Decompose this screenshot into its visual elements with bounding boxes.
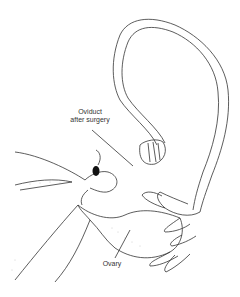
ovary-body xyxy=(78,205,182,258)
oviduct-label-line1: Oviduct xyxy=(60,108,120,116)
ovary-label: Ovary xyxy=(92,260,132,268)
oviduct-tube-outer xyxy=(113,19,228,212)
fimbriae xyxy=(142,192,200,272)
oviduct-leader-line xyxy=(92,130,133,166)
oviduct-label: Oviduct after surgery xyxy=(60,108,120,124)
surgical-clip xyxy=(93,166,100,176)
oviduct-label-line2: after surgery xyxy=(60,116,120,124)
tube-cut-end xyxy=(140,140,166,165)
oviduct-stub xyxy=(85,172,117,193)
oviduct-diagram xyxy=(0,0,240,297)
ovary-leader-line xyxy=(115,230,130,258)
